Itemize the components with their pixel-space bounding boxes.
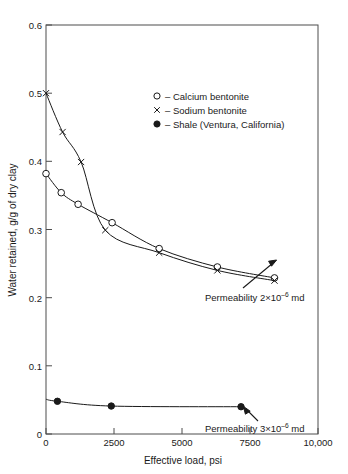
data-point-marker — [108, 403, 114, 409]
legend-entry-calcium: – Calcium bentonite — [165, 91, 249, 102]
y-tick-label: 0.6 — [29, 20, 42, 31]
x-axis-title: Effective load, psi — [144, 455, 222, 466]
y-tick-label: 0.3 — [29, 225, 42, 236]
annotation-text-bentonite: Permeability 2×10–6 md — [205, 291, 305, 303]
data-point-marker — [54, 398, 60, 404]
data-point-marker — [75, 201, 82, 208]
plot-frame — [46, 25, 318, 434]
data-point-marker — [109, 219, 116, 226]
legend-x-icon — [154, 107, 160, 113]
y-axis-tick-labels: 0 0.1 0.2 0.3 0.4 0.5 0.6 — [29, 20, 42, 440]
shale-line — [46, 399, 241, 406]
legend-filled-circle-icon — [154, 121, 160, 127]
arrowhead-shale-icon — [243, 406, 250, 414]
chart-figure: 0 0.1 0.2 0.3 0.4 0.5 0.6 0 2500 5000 75… — [0, 0, 348, 474]
y-tick-label: 0.1 — [29, 361, 42, 372]
chart-canvas: 0 0.1 0.2 0.3 0.4 0.5 0.6 0 2500 5000 75… — [0, 0, 348, 474]
legend-entry-sodium: – Sodium bentonite — [165, 105, 247, 116]
legend-label-2: Shale (Ventura, California) — [173, 119, 284, 130]
y-axis-ticks — [46, 25, 52, 434]
y-axis-title: Water retained, g/g of dry clay — [7, 163, 18, 296]
series-shale — [46, 398, 244, 410]
data-point-marker — [58, 189, 65, 196]
x-tick-label: 2500 — [103, 437, 124, 448]
x-tick-label: 10,000 — [303, 437, 332, 448]
y-tick-label: 0.2 — [29, 293, 42, 304]
legend-entry-shale: – Shale (Ventura, California) — [165, 119, 284, 130]
calcium-bentonite-line — [46, 174, 274, 278]
legend-label-0: Calcium bentonite — [173, 91, 249, 102]
x-axis-tick-labels: 0 2500 5000 7500 10,000 — [43, 437, 332, 448]
legend-open-circle-icon — [154, 93, 160, 99]
annotation-permeability-shale: Permeability 3×10–6 md — [205, 406, 305, 434]
annotation-text-shale: Permeability 3×10–6 md — [205, 422, 305, 434]
x-tick-label: 5000 — [171, 437, 192, 448]
data-point-marker — [214, 264, 221, 271]
x-tick-label: 7500 — [239, 437, 260, 448]
y-tick-label: 0 — [37, 429, 42, 440]
y-tick-label: 0.5 — [29, 88, 42, 99]
chart-legend: – Calcium bentonite – Sodium bentonite –… — [154, 91, 284, 130]
data-point-marker — [43, 170, 50, 177]
x-tick-label: 0 — [43, 437, 48, 448]
legend-label-1: Sodium bentonite — [173, 105, 247, 116]
series-calcium-bentonite — [43, 170, 278, 281]
calcium-bentonite-markers — [43, 170, 278, 281]
y-tick-label: 0.4 — [29, 156, 42, 167]
